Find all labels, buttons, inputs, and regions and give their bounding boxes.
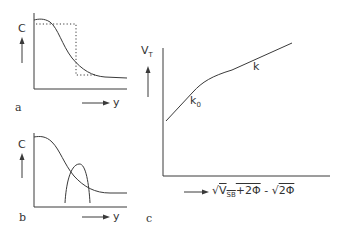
panel-c-y-label: VT — [141, 45, 153, 59]
panel-c-x-arrow-head — [202, 190, 209, 195]
vsb-symbol: V — [219, 184, 227, 197]
panel-a-c-arrow-head — [20, 37, 25, 44]
figure-canvas — [0, 0, 344, 238]
panel-b-y-label: C — [18, 139, 26, 150]
sqrt-argument-1: VSB+2Φ — [219, 184, 261, 197]
vt-symbol: V — [141, 44, 149, 57]
panel-b-label: b — [19, 212, 26, 223]
k0-subscript: 0 — [196, 101, 200, 109]
panel-a-y-arrow-head — [103, 101, 110, 106]
vt-subscript: T — [149, 51, 153, 59]
panel-a-x-label: y — [113, 97, 120, 108]
panel-a-label: a — [15, 102, 22, 113]
panel-c-label: c — [146, 213, 152, 224]
panel-b-c-arrow-head — [20, 153, 25, 160]
two-phi-2: 2Φ — [279, 184, 295, 197]
panel-a-plot — [22, 13, 127, 103]
slope-k0-label: k0 — [190, 95, 201, 109]
sqrt-symbol-1: √ — [212, 184, 219, 197]
panel-a-y-label: C — [18, 23, 26, 34]
two-phi-1: +2Φ — [236, 184, 261, 197]
panel-b-y-arrow-head — [103, 215, 110, 220]
panel-b-plot — [22, 133, 127, 217]
slope-k-label: k — [253, 61, 259, 72]
panel-c-x-label: √VSB+2Φ - √2Φ — [212, 185, 294, 199]
panel-b-x-label: y — [113, 211, 120, 222]
panel-b-bell-curve — [65, 164, 90, 203]
panel-c-vt-curve — [166, 43, 292, 121]
panel-c-vt-arrow-head — [146, 66, 151, 73]
vsb-subscript: SB — [227, 191, 236, 199]
panel-a-profile-curve — [34, 19, 127, 78]
minus-sqrt-symbol: - √ — [261, 184, 279, 197]
panel-c-plot — [148, 43, 330, 192]
panel-b-profile-curve — [34, 137, 127, 193]
